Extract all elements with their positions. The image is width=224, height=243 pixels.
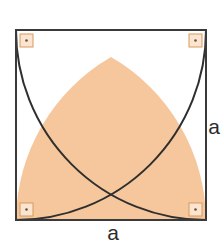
right-angle-marker-top-left [20,34,33,47]
figure-canvas: Square with two intersecting quarter-cir… [0,0,224,243]
geometry-figure: Square with two intersecting quarter-cir… [0,0,224,243]
side-label-bottom: a [107,221,119,243]
right-angle-marker-bottom-right [189,203,202,216]
right-angle-marker-bottom-left [20,203,33,216]
right-angle-marker-top-right [189,34,202,47]
side-label-right: a [208,115,220,138]
